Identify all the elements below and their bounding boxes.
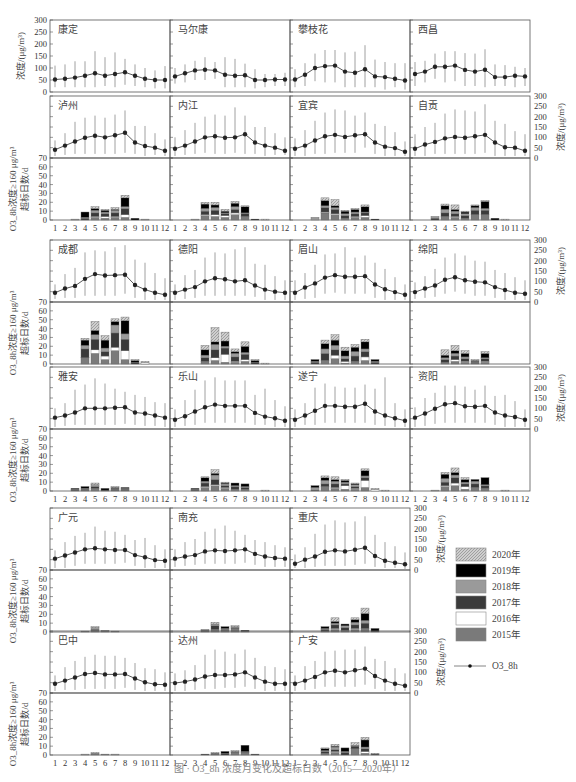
o3-8h-line: [295, 548, 405, 565]
o3-8h-point: [83, 277, 87, 281]
bar-segment-2020年: [351, 618, 359, 620]
conc-tick-label: 250: [34, 27, 47, 37]
month-tick-label: 7: [353, 494, 357, 504]
o3-8h-point: [203, 405, 207, 409]
bar-segment-2017年: [371, 362, 379, 364]
o3-8h-point: [313, 281, 317, 285]
bar-segment-2018年: [431, 490, 439, 491]
bar-segment-2015年: [231, 489, 239, 491]
bar-segment-2016年: [451, 360, 459, 362]
panel-row-5: 巴中达州广安010203040506070050100150200250300浓…: [7, 626, 446, 768]
o3-8h-line: [55, 673, 165, 685]
bar-segment-2020年: [461, 478, 469, 480]
bar-segment-2018年: [451, 353, 459, 356]
bar-segment-2017年: [461, 359, 469, 362]
days-axis-label: O3_8h浓度≥160 μg/m³: [7, 558, 18, 643]
panel-row-1: 泸州内江宜宾自贡01020304050607005010015020025030…: [7, 91, 566, 233]
o3-8h-point: [163, 559, 167, 563]
o3-8h-point: [93, 671, 97, 675]
bar-segment-2015年: [481, 362, 489, 364]
o3-8h-point: [363, 67, 367, 71]
month-tick-label: 8: [243, 223, 247, 233]
legend-swatch: [456, 596, 486, 609]
bar-segment-2020年: [91, 321, 99, 330]
o3-8h-point: [193, 68, 197, 72]
o3-8h-point: [323, 64, 327, 68]
o3-8h-point: [63, 413, 67, 417]
month-tick-label: 10: [261, 494, 270, 504]
o3-8h-point: [463, 404, 467, 408]
bar-segment-2020年: [351, 345, 359, 348]
bar-segment-2019年: [251, 219, 259, 220]
bar-segment-2016年: [221, 354, 229, 362]
bar-segment-2019年: [81, 212, 89, 217]
o3-8h-point: [393, 682, 397, 686]
o3-8h-point: [313, 138, 317, 142]
month-tick-label: 9: [373, 494, 377, 504]
o3-8h-point: [103, 135, 107, 139]
bar-segment-2020年: [441, 204, 449, 206]
o3-8h-point: [343, 69, 347, 73]
o3-8h-point: [83, 406, 87, 410]
bar-segment-2018年: [211, 208, 219, 211]
conc-tick-label: 200: [534, 256, 547, 266]
bar-segment-2020年: [241, 342, 249, 346]
month-tick-label: 7: [113, 223, 117, 233]
bar-segment-2019年: [121, 198, 129, 207]
o3-8h-point: [483, 404, 487, 408]
bar-segment-2019年: [231, 483, 239, 486]
bar-segment-2020年: [381, 490, 389, 491]
panel-row-2: 成都德阳眉山绵阳01020304050607005010015020025030…: [7, 235, 566, 375]
o3-8h-point: [103, 547, 107, 551]
bar-segment-2019年: [371, 360, 379, 362]
days-axis-label: O3_8h浓度≥160 μg/m³: [7, 417, 18, 502]
bar-segment-2018年: [241, 352, 249, 354]
o3-8h-point: [153, 413, 157, 417]
conc-tick-label: 100: [534, 276, 547, 286]
bar-segment-2019年: [91, 208, 99, 210]
o3-8h-point: [263, 78, 267, 82]
bar-segment-2015年: [321, 360, 329, 364]
o3-8h-point: [333, 273, 337, 277]
month-tick-label: 9: [373, 223, 377, 233]
bar-segment-2019年: [131, 360, 139, 362]
month-tick-label: 5: [93, 494, 97, 504]
bar-segment-2019年: [471, 206, 479, 208]
bar-segment-2015年: [221, 362, 229, 364]
bar-segment-2017年: [91, 213, 99, 217]
o3-8h-point: [523, 149, 527, 153]
o3-8h-point: [63, 286, 67, 290]
bar-segment-2020年: [201, 345, 209, 349]
o3-8h-point: [233, 672, 237, 676]
month-tick-label: 11: [511, 223, 519, 233]
city-label: 雅安: [58, 370, 78, 382]
o3-8h-point: [443, 65, 447, 69]
o3-8h-point: [383, 413, 387, 417]
bar-segment-2018年: [191, 219, 199, 220]
bar-segment-2020年: [231, 349, 239, 352]
city-panel-康定: 康定: [50, 20, 170, 92]
bar-segment-2020年: [211, 202, 219, 205]
bar-segment-2018年: [211, 345, 219, 350]
month-tick-label: 10: [381, 223, 390, 233]
bar-segment-2015年: [461, 362, 469, 364]
o3-8h-point: [53, 291, 57, 295]
bar-segment-2015年: [361, 628, 369, 632]
o3-8h-point: [303, 73, 307, 77]
o3-8h-point: [143, 77, 147, 81]
bar-segment-2020年: [341, 479, 349, 480]
bar-segment-2019年: [351, 620, 359, 623]
o3-8h-point: [133, 283, 137, 287]
bar-segment-2020年: [331, 618, 339, 622]
bar-segment-2019年: [341, 211, 349, 214]
bar-segment-2020年: [481, 201, 489, 202]
month-tick-label: 6: [103, 494, 107, 504]
o3-8h-point: [103, 273, 107, 277]
bar-segment-2017年: [111, 333, 119, 347]
bar-segment-2020年: [361, 737, 369, 740]
o3-8h-point: [233, 135, 237, 139]
bar-segment-2018年: [451, 475, 459, 478]
bar-segment-2019年: [461, 353, 469, 357]
legend-swatch: [456, 548, 486, 561]
month-tick-label: 5: [453, 223, 457, 233]
